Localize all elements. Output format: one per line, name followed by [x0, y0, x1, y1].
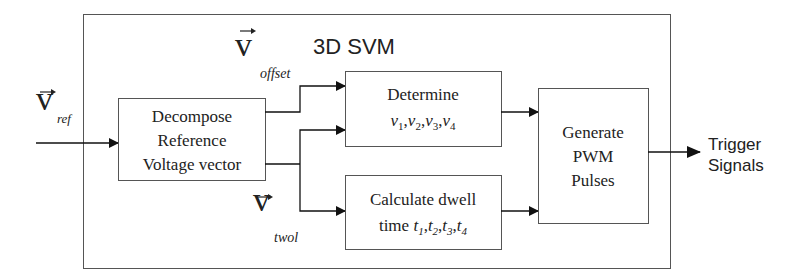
- calculate-line1: Calculate dwell: [370, 190, 476, 209]
- generate-line1: Generate: [562, 123, 623, 142]
- v-ref-label: v ref: [36, 80, 73, 126]
- output-line2: Signals: [708, 156, 764, 175]
- generate-line2: PWM: [573, 147, 614, 166]
- v-ref-symbol: v: [36, 80, 53, 117]
- calculate-vars: time t1,t2,t3,t4: [379, 216, 468, 237]
- v-twol-label: v twol: [253, 181, 298, 245]
- determine-block: Determine v1,v2,v3,v4: [346, 72, 502, 147]
- v-offset-subscript: offset: [260, 66, 291, 81]
- v-ref-subscript: ref: [57, 111, 73, 126]
- offset-connector: [265, 86, 345, 112]
- generate-block: Generate PWM Pulses: [539, 89, 649, 224]
- v-twol-symbol: v: [253, 181, 270, 218]
- v-offset-label: v offset: [235, 26, 291, 81]
- decompose-line2: Reference: [158, 131, 227, 150]
- twol-to-calculate-connector: [300, 164, 345, 211]
- decompose-block: Decompose Reference Voltage vector: [119, 99, 266, 181]
- determine-line1: Determine: [387, 85, 459, 104]
- decompose-line1: Decompose: [152, 107, 232, 126]
- generate-line3: Pulses: [571, 171, 614, 190]
- svm-block-diagram: 3D SVM v offset v ref v twol Decompose R…: [0, 0, 801, 280]
- output-line1: Trigger: [708, 135, 762, 154]
- v-twol-subscript: twol: [274, 230, 298, 245]
- calculate-block: Calculate dwell time t1,t2,t3,t4: [346, 176, 502, 250]
- twol-to-determine-connector: [300, 130, 345, 164]
- diagram-title: 3D SVM: [313, 34, 395, 59]
- decompose-line3: Voltage vector: [143, 155, 242, 174]
